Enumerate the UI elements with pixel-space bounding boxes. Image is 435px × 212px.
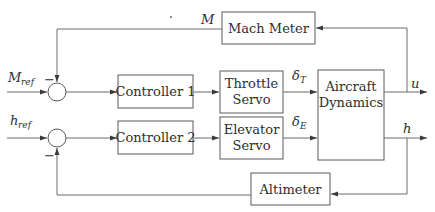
altimeter-block: Altimeter: [251, 173, 330, 205]
u-output-label: u: [411, 76, 419, 91]
controller-1-block: Controller 1: [115, 75, 195, 108]
svg-text:Altimeter: Altimeter: [258, 182, 322, 197]
svg-text:ref: ref: [21, 77, 36, 87]
throttle-servo-block: Throttle Servo: [220, 71, 283, 113]
mach-meter-block: Mach Meter: [222, 12, 315, 44]
block-diagram: M ref − Controller 1 Throttle Servo δ T …: [0, 0, 435, 212]
svg-text:Aircraft: Aircraft: [324, 79, 377, 94]
junction-1-minus-sign: −: [44, 72, 55, 87]
mach-feedback-wire: [57, 29, 222, 82]
svg-text:Throttle: Throttle: [225, 76, 279, 91]
delta-e-label: δ E: [292, 114, 307, 131]
svg-text:Servo: Servo: [233, 138, 271, 153]
h-ref-label: h ref: [10, 113, 33, 130]
svg-text:ref: ref: [18, 120, 33, 130]
controller-2-block: Controller 2: [115, 121, 195, 154]
svg-text:δ: δ: [292, 68, 300, 83]
svg-text:Servo: Servo: [233, 92, 271, 107]
svg-text:Controller 2: Controller 2: [115, 130, 195, 145]
svg-text:E: E: [299, 121, 307, 131]
svg-text:Elevator: Elevator: [224, 122, 280, 137]
h-output-label: h: [403, 121, 411, 136]
mach-ref-label: M ref: [7, 70, 36, 87]
svg-text:T: T: [300, 75, 307, 85]
elevator-servo-block: Elevator Servo: [220, 117, 283, 159]
svg-text:δ: δ: [292, 114, 300, 129]
svg-text:Dynamics: Dynamics: [319, 95, 383, 110]
svg-text:Controller 1: Controller 1: [115, 84, 195, 99]
svg-text:M: M: [7, 70, 22, 85]
delta-t-label: δ T: [292, 68, 307, 85]
summing-junction-2: [48, 129, 66, 147]
aircraft-dynamics-block: Aircraft Dynamics: [318, 70, 384, 160]
svg-text:Mach Meter: Mach Meter: [228, 21, 310, 36]
stray-dot: [170, 16, 172, 18]
mach-feedback-label: M: [200, 12, 215, 27]
junction-2-minus-sign: −: [44, 148, 55, 163]
